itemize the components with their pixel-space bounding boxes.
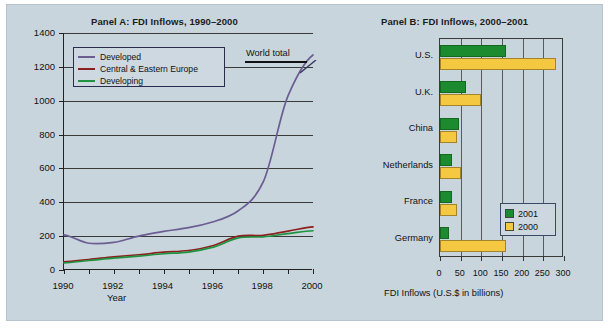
panel-a-legend[interactable]: Developed Central & Eastern Europe Devel…	[73, 47, 225, 87]
x-tick-label: 150	[493, 268, 508, 278]
legend-swatch-2000	[505, 222, 514, 231]
bar-2001-germany	[440, 227, 449, 239]
bar-2000-netherlands	[440, 167, 461, 179]
x-tick-label: 1990	[52, 280, 73, 291]
legend-label-2000: 2000	[518, 222, 538, 232]
x-tick-mark	[523, 256, 524, 261]
y-tick-label: 1000	[15, 95, 55, 106]
panel-b-legend[interactable]: 2001 2000	[500, 203, 556, 236]
category-label-u-k: U.K.	[415, 87, 433, 97]
legend-item-developed[interactable]: Developed	[78, 51, 220, 63]
x-tick-mark	[481, 256, 482, 261]
gridline	[461, 39, 462, 258]
legend-swatch-developed	[78, 56, 95, 58]
y-tick-label: 0	[15, 264, 55, 275]
legend-item-central-eastern-europe[interactable]: Central & Eastern Europe	[78, 63, 220, 75]
bar-2000-france	[440, 204, 457, 216]
x-tick-mark	[440, 256, 441, 261]
x-tick-mark	[313, 269, 314, 274]
legend-swatch-central-eastern-europe	[78, 68, 95, 70]
legend-label-2001: 2001	[518, 209, 538, 219]
x-tick-mark	[543, 256, 544, 261]
x-tick-label: 1992	[102, 280, 123, 291]
bar-2000-u-s	[440, 58, 556, 70]
y-tick-label: 400	[15, 196, 55, 207]
legend-item-2001[interactable]: 2001	[505, 207, 555, 220]
legend-label-developing: Developing	[100, 76, 143, 86]
x-tick-label: 50	[455, 268, 465, 278]
panel-a-x-axis-title: Year	[107, 292, 126, 303]
y-tick-label: 1200	[15, 61, 55, 72]
legend-label-developed: Developed	[100, 52, 141, 62]
panel-a-title: Panel A: FDI Inflows, 1990–2000	[91, 16, 238, 27]
category-label-u-s: U.S.	[415, 50, 433, 60]
panel-b-title: Panel B: FDI Inflows, 2000–2001	[381, 16, 528, 27]
panel-b-x-axis-title: FDI Inflows (U.S.$ in billions)	[384, 288, 503, 298]
y-tick-label: 600	[15, 162, 55, 173]
x-tick-label: 1998	[252, 280, 273, 291]
y-tick-label: 800	[15, 129, 55, 140]
category-label-netherlands: Netherlands	[383, 160, 433, 170]
bar-2001-netherlands	[440, 154, 452, 166]
world-total-annotation: World total	[246, 48, 290, 58]
gridline	[481, 39, 482, 258]
x-tick-label: 100	[473, 268, 488, 278]
x-tick-label: 1996	[202, 280, 223, 291]
world-total-pointer-line	[300, 60, 317, 74]
x-tick-label: 250	[535, 268, 550, 278]
world-total-underline	[245, 61, 307, 63]
panel-b: Panel B: FDI Inflows, 2000–2001 U.S.U.K.…	[351, 5, 604, 320]
bar-2000-u-k	[440, 94, 481, 106]
x-tick-label: 200	[514, 268, 529, 278]
bar-2001-china	[440, 118, 459, 130]
legend-item-2000[interactable]: 2000	[505, 220, 555, 233]
category-label-germany: Germany	[395, 233, 433, 243]
x-tick-label: 1994	[152, 280, 173, 291]
legend-swatch-developing	[78, 80, 95, 82]
bar-2000-germany	[440, 240, 506, 252]
panel-a: Panel A: FDI Inflows, 1990–2000 FDI Infl…	[7, 5, 351, 320]
bar-2001-france	[440, 191, 452, 203]
x-tick-mark	[461, 256, 462, 261]
figure-container: Panel A: FDI Inflows, 1990–2000 FDI Infl…	[6, 4, 603, 321]
x-tick-mark	[564, 256, 565, 261]
x-tick-label: 0	[436, 268, 441, 278]
bar-2000-china	[440, 131, 457, 143]
y-tick-label: 1400	[15, 27, 55, 38]
category-label-france: France	[404, 196, 433, 206]
bar-2001-u-s	[440, 45, 506, 57]
x-tick-mark	[502, 256, 503, 261]
legend-item-developing[interactable]: Developing	[78, 75, 220, 87]
legend-label-central-eastern-europe: Central & Eastern Europe	[100, 64, 198, 74]
legend-swatch-2001	[505, 209, 514, 218]
category-label-china: China	[409, 123, 433, 133]
y-tick-label: 200	[15, 230, 55, 241]
x-tick-label: 300	[555, 268, 570, 278]
bar-2001-u-k	[440, 81, 466, 93]
x-tick-label: 2000	[301, 280, 322, 291]
